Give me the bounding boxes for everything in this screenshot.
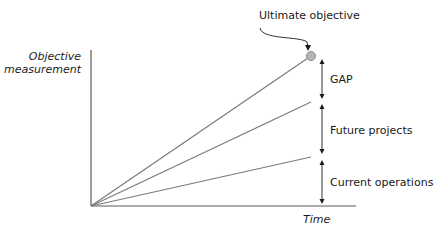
- current-operations-dimension-arrow: [320, 160, 325, 204]
- callout-arrow: [260, 28, 308, 47]
- current-operations-label: Current operations: [330, 176, 433, 189]
- y-axis-label: Objective measurement: [4, 50, 81, 76]
- ultimate-objective-label: Ultimate objective: [259, 9, 360, 22]
- current-operations-line: [91, 157, 311, 206]
- y-axis-label-line1: Objective: [4, 50, 81, 63]
- callout-arrowhead-icon: [305, 45, 311, 51]
- diagram-canvas: [0, 0, 438, 239]
- x-axis-label: Time: [303, 213, 330, 226]
- future-projects-label: Future projects: [330, 124, 412, 137]
- future-projects-line: [91, 102, 311, 206]
- gap-dimension-arrow: [320, 59, 325, 99]
- future-projects-dimension-arrow: [320, 104, 325, 154]
- gap-label: GAP: [330, 73, 353, 86]
- y-axis-label-line2: measurement: [4, 63, 81, 76]
- ultimate-objective-line: [91, 58, 308, 206]
- ultimate-objective-marker: [307, 52, 316, 61]
